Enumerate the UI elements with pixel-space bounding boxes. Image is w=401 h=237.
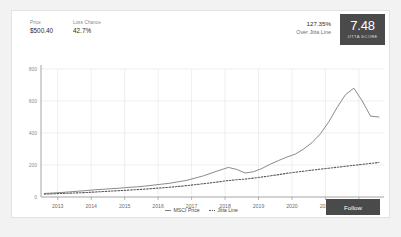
over-jitta-line-percent: 127.35% (296, 20, 331, 28)
y-axis-tick-label: 400 (29, 130, 38, 136)
legend-swatch-icon (209, 210, 215, 211)
jitta-stock-chart-widget: Price $500.40 Loss Chance 42.7% 127.35% … (0, 0, 401, 237)
loss-chance-stat: Loss Chance 42.7% (73, 19, 101, 35)
chart-card: Price $500.40 Loss Chance 42.7% 127.35% … (11, 10, 390, 218)
series-line-msci-price (44, 88, 379, 193)
jitta-score-value: 7.48 (350, 19, 375, 33)
legend-label: MSCI Price (174, 207, 200, 213)
legend-label: Jitta Line (217, 207, 238, 213)
y-axis-tick-label: 800 (29, 66, 38, 72)
legend-item-jitta-line[interactable]: Jitta Line (209, 207, 238, 213)
y-axis-tick-label: 0 (34, 194, 37, 200)
jitta-score-badge: 7.48 JITTA SCORE (340, 14, 385, 45)
loss-chance-label: Loss Chance (73, 19, 101, 26)
line-chart-svg: 0200400600800201320142015201620172018201… (12, 49, 391, 219)
jitta-score-caption: JITTA SCORE (347, 33, 378, 40)
price-value: $500.40 (30, 26, 53, 35)
over-jitta-line-caption: Over Jitta Line (296, 28, 331, 36)
over-jitta-line-stat: 127.35% Over Jitta Line (296, 20, 331, 36)
follow-button[interactable]: Follow (326, 199, 380, 215)
chart-plot-area: 0200400600800201320142015201620172018201… (12, 49, 391, 219)
price-label: Price (30, 19, 53, 26)
legend-item-msci-price[interactable]: MSCI Price (165, 207, 200, 213)
price-stat: Price $500.40 (30, 19, 53, 35)
card-header: Price $500.40 Loss Chance 42.7% 127.35% … (12, 11, 389, 49)
y-axis-tick-label: 200 (29, 162, 38, 168)
legend-swatch-icon (165, 210, 171, 211)
loss-chance-value: 42.7% (73, 26, 101, 35)
y-axis-tick-label: 600 (29, 98, 38, 104)
